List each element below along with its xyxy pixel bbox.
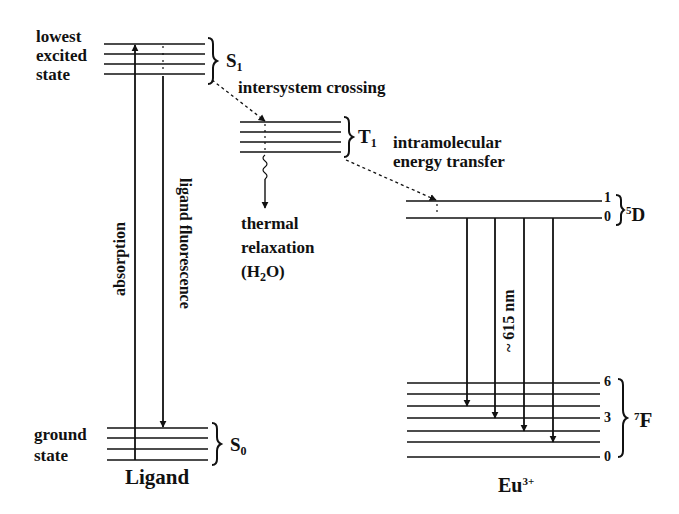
s1-brace [208,38,217,84]
thermal-line: (H2O) [241,260,314,289]
s0-brace [212,423,221,465]
t1-brace [344,117,353,157]
absorption-label: absorption [111,222,129,296]
s1-label-sub: 1 [237,60,243,74]
t1-levels [240,122,341,152]
transfer-line: energy transfer [393,152,505,171]
s1-desc-line: state [36,65,87,84]
d5-level-1: 1 [604,191,611,205]
transfer-label: intramolecular energy transfer [393,133,505,171]
thermal-relaxation-wave [263,155,267,179]
thermal-label: thermal relaxation (H2O) [241,212,314,289]
eu-title-main: Eu [498,474,522,496]
d5-brace [616,195,624,225]
isc-label: intersystem crossing [238,78,385,97]
s0-levels [107,428,208,460]
s1-label-main: S [226,50,237,71]
d5-label: 5D [626,201,645,224]
thermal-line: relaxation [241,236,314,260]
thermal-line: thermal [241,212,314,236]
f7-level-6: 6 [604,375,611,389]
s0-label-sub: 0 [241,444,247,458]
s1-label: S1 [226,51,243,77]
s0-desc: ground state [34,424,87,466]
ligand-title: Ligand [125,468,189,487]
f7-levels [407,383,600,457]
t1-label-sub: 1 [371,136,377,150]
eu-title-sup: 3+ [522,475,534,487]
s1-desc: lowest excited state [36,27,87,84]
s0-label-main: S [230,434,241,455]
f7-level-3: 3 [604,411,611,425]
d5-label-main: D [632,204,646,225]
s1-desc-line: lowest [36,27,87,46]
europium-title: Eu3+ [498,472,534,495]
thermal-h: (H [241,262,260,281]
d5-level-0: 0 [604,210,611,224]
s0-desc-line: ground [34,424,87,445]
emission-label: ~ 615 nm [500,289,518,352]
s1-levels [104,44,205,74]
t1-label: T1 [358,127,377,153]
f7-level-0: 0 [604,450,611,464]
f7-brace [618,379,627,457]
s0-label: S0 [230,435,247,461]
f7-label-main: F [640,408,653,432]
s1-desc-line: excited [36,46,87,65]
transfer-line: intramolecular [393,133,505,152]
s0-desc-line: state [34,445,87,466]
fluorescence-label: ligand fluorescence [176,178,194,309]
thermal-o: O) [266,262,285,281]
t1-label-main: T [358,126,371,147]
d5-levels [406,201,602,218]
f7-label: 7F [634,407,652,430]
